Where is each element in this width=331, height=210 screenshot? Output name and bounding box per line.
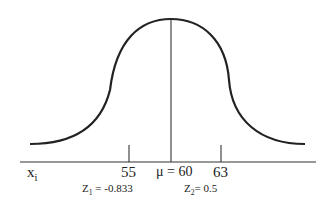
tick-label-63: 63 [213, 165, 228, 180]
z-score-1: Z1 = -0.833 [82, 183, 133, 197]
axis-variable-label: xi [27, 165, 37, 184]
z-score-2: Z2= 0.5 [184, 183, 217, 197]
tick-label-55: 55 [121, 165, 136, 180]
mean-label: μ = 60 [156, 165, 192, 179]
bell-curve [30, 19, 305, 144]
